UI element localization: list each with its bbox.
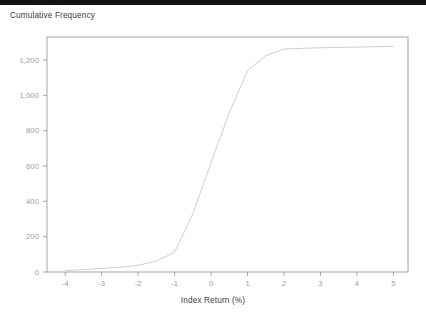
y-tick-label: 0	[35, 268, 39, 277]
y-tick-label: 1,000	[19, 91, 39, 100]
y-axis-ticks	[43, 60, 47, 272]
chart-page: Cumulative Frequency 02004006008001,0001…	[0, 0, 426, 314]
y-axis-tick-labels: 02004006008001,0001,200	[19, 56, 39, 277]
x-tick-label: -1	[171, 279, 178, 288]
x-tick-label: 4	[355, 279, 359, 288]
y-tick-label: 1,200	[19, 56, 39, 65]
x-tick-label: 1	[245, 279, 249, 288]
plot-frame	[47, 37, 408, 272]
y-tick-label: 600	[26, 162, 39, 171]
cumulative-frequency-chart: 02004006008001,0001,200 -4-3-2-1012345	[0, 0, 426, 314]
x-axis-ticks	[65, 272, 393, 276]
axis-frame	[47, 37, 408, 272]
y-tick-label: 800	[26, 126, 39, 135]
x-tick-label: -3	[98, 279, 105, 288]
x-tick-label: 5	[391, 279, 395, 288]
y-tick-label: 400	[26, 197, 39, 206]
x-axis-title: Index Return (%)	[0, 296, 426, 305]
plot-area: 02004006008001,0001,200 -4-3-2-1012345	[0, 0, 426, 314]
cumulative-frequency-line	[65, 46, 393, 270]
x-axis-tick-labels: -4-3-2-1012345	[62, 279, 396, 288]
x-tick-label: 0	[209, 279, 213, 288]
x-tick-label: -2	[135, 279, 142, 288]
y-tick-label: 200	[26, 232, 39, 241]
x-tick-label: 3	[318, 279, 322, 288]
x-tick-label: -4	[62, 279, 69, 288]
x-tick-label: 2	[282, 279, 286, 288]
